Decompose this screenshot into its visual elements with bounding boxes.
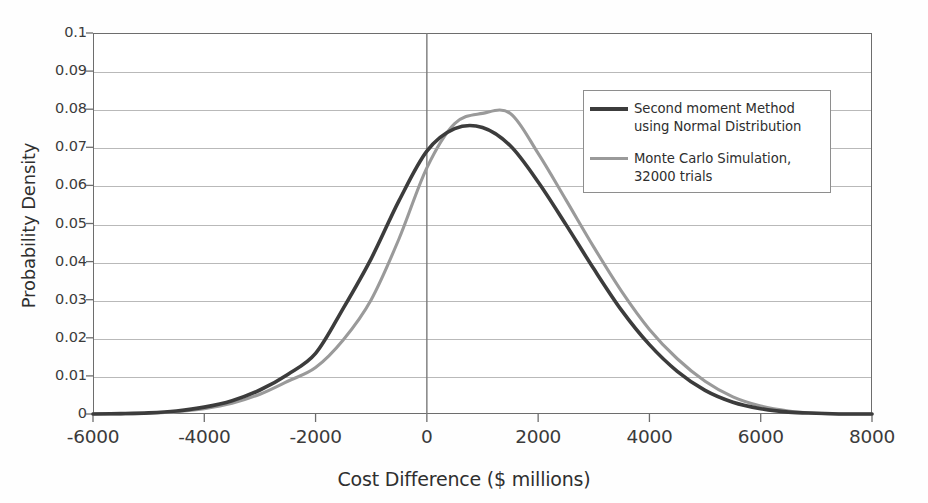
legend-item: Monte Carlo Simulation, 32000 trials xyxy=(590,150,824,185)
chart-curves xyxy=(0,0,928,503)
y-axis-title: Probability Density xyxy=(18,126,39,326)
chart-figure: 00.010.020.030.040.050.060.070.080.090.1… xyxy=(0,0,928,503)
chart-legend: Second moment Method using Normal Distri… xyxy=(583,90,831,193)
legend-item-label: Monte Carlo Simulation, 32000 trials xyxy=(634,150,824,185)
x-axis-title: Cost Difference ($ millions) xyxy=(0,468,928,490)
legend-line-swatch-0 xyxy=(590,107,628,111)
legend-item: Second moment Method using Normal Distri… xyxy=(590,100,824,135)
legend-line-swatch-1 xyxy=(590,157,628,160)
legend-item-label: Second moment Method using Normal Distri… xyxy=(634,100,824,135)
